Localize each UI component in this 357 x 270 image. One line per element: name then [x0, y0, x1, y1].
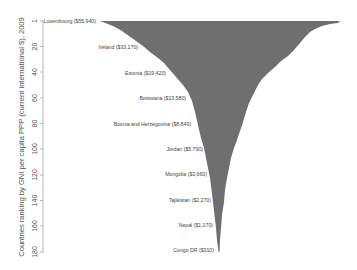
funnel-chart: 1 20 40 60 80 100 120 140 160 180 Countr…: [0, 0, 357, 270]
annotation-congo-dr: Congo DR ($310): [173, 247, 214, 253]
annotation-mongolia: Mongolia ($3,660): [165, 171, 207, 177]
annotation-estonia: Estonia ($19,420): [125, 70, 166, 76]
annotation-botswana: Botswana ($13,580): [140, 95, 187, 101]
y-tick-1: 1: [31, 19, 38, 23]
y-tick-40: 40: [31, 68, 38, 76]
y-tick-100: 100: [31, 143, 38, 155]
y-tick-20: 20: [31, 43, 38, 51]
y-axis-label: Countries ranking by GNI per capita PPP …: [17, 17, 26, 257]
y-tick-180: 180: [31, 246, 38, 258]
annotation-ireland: Ireland ($33,170): [98, 44, 138, 50]
annotation-luxembourg: Luxembourg ($55,940): [44, 18, 97, 24]
y-tick-160: 160: [31, 220, 38, 232]
annotation-nepal: Nepal ($1,170): [179, 222, 214, 228]
y-tick-labels: 1 20 40 60 80 100 120 140 160 180: [31, 19, 38, 258]
y-tick-80: 80: [31, 120, 38, 128]
annotation-jordan: Jordan ($5,790): [166, 146, 203, 152]
annotation-bosnia: Bosnia and Herzegovina ($8,840): [114, 121, 192, 127]
y-tick-60: 60: [31, 94, 38, 102]
y-tick-140: 140: [31, 195, 38, 207]
y-axis-ticks: [40, 21, 43, 252]
gni-funnel-shape: [100, 21, 340, 252]
y-tick-120: 120: [31, 169, 38, 181]
annotation-tajikistan: Tajikistan ($2,270): [169, 197, 211, 203]
